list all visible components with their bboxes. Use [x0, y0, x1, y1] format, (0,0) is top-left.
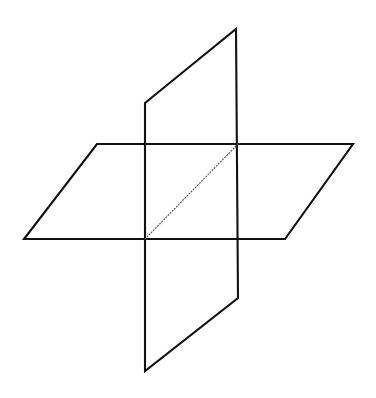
geometry-canvas: Two intersecting planes in three-dimensi… — [0, 0, 376, 398]
geometry-figure: Two intersecting planes in three-dimensi… — [0, 0, 376, 398]
